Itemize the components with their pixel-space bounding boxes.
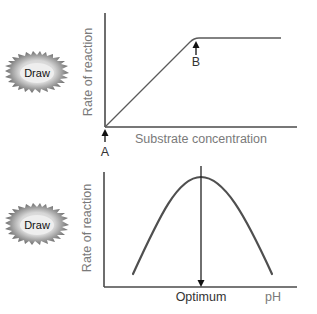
optimum-label: Optimum bbox=[176, 290, 227, 304]
draw-badge-bottom: Draw bbox=[5, 203, 69, 245]
x-axis-label: Substrate concentration bbox=[135, 132, 267, 146]
diagram-canvas: Draw Draw Rate of reaction Substrate con… bbox=[0, 0, 317, 314]
arrow-up-icon bbox=[193, 41, 200, 55]
substrate-chart: Rate of reaction Substrate concentration… bbox=[81, 13, 297, 159]
marker-b-label: B bbox=[192, 55, 200, 69]
arrow-up-icon bbox=[102, 129, 109, 142]
marker-a-label: A bbox=[101, 145, 110, 159]
x-axis-label: pH bbox=[265, 290, 281, 304]
y-axis-label: Rate of reaction bbox=[81, 28, 95, 116]
rate-curve bbox=[105, 38, 281, 127]
badge-label: Draw bbox=[24, 219, 50, 231]
badge-label: Draw bbox=[24, 67, 50, 79]
ph-curve bbox=[133, 177, 272, 274]
arrow-down-icon bbox=[198, 166, 205, 287]
draw-badge-top: Draw bbox=[5, 51, 69, 93]
ph-chart: Rate of reaction pH Optimum bbox=[80, 166, 297, 304]
y-axis-label: Rate of reaction bbox=[80, 184, 94, 272]
